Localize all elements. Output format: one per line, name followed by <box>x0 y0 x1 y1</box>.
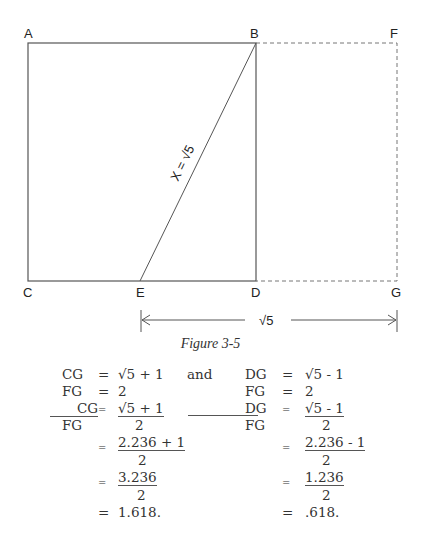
fraction-numerator: DG <box>245 400 267 416</box>
equals: = <box>282 404 290 415</box>
point-c: C <box>23 285 32 300</box>
equals: = <box>98 504 109 520</box>
diagonal-label: X = √5 <box>167 143 197 184</box>
equals: = <box>98 366 109 382</box>
fraction-numerator: 3.236 <box>118 469 157 486</box>
lhs: CG <box>62 366 83 382</box>
point-e: E <box>136 285 145 300</box>
fraction-denominator: 2 <box>322 487 331 503</box>
square-abdc <box>28 43 256 281</box>
fraction-denominator: 2 <box>138 452 147 468</box>
result-value: 1.618. <box>118 504 161 520</box>
dashed-rectangle-bfgd <box>256 43 397 281</box>
equals: = <box>98 477 106 488</box>
golden-ratio-diagram: A B F C E D G X = √5 √5 <box>0 0 421 340</box>
rhs: 2 <box>118 383 127 399</box>
equals: = <box>98 404 106 415</box>
diagonal-be <box>140 43 256 281</box>
point-g: G <box>391 285 401 300</box>
rhs: √5 - 1 <box>305 366 344 382</box>
equals: = <box>282 366 293 382</box>
dimension-label: √5 <box>259 313 273 328</box>
point-a: A <box>24 26 33 41</box>
result-value: .618. <box>305 504 339 520</box>
point-f: F <box>390 26 398 41</box>
fraction-denominator: 2 <box>322 452 331 468</box>
lhs: DG <box>245 366 267 382</box>
connector-and: and <box>187 366 212 382</box>
rhs: √5 + 1 <box>118 366 164 382</box>
fraction-denominator: 2 <box>322 417 331 433</box>
fraction-denominator: 2 <box>135 417 144 433</box>
equals: = <box>282 442 290 453</box>
fraction-numerator: 2.236 + 1 <box>118 434 185 451</box>
equals: = <box>98 442 106 453</box>
fraction-numerator: 2.236 - 1 <box>305 434 365 451</box>
equals: = <box>282 383 293 399</box>
fraction-denominator: FG <box>245 417 265 433</box>
point-b: B <box>250 26 259 41</box>
equals: = <box>98 383 109 399</box>
lhs: FG <box>62 383 82 399</box>
fraction-denominator: 2 <box>137 487 146 503</box>
rhs: 2 <box>305 383 314 399</box>
fraction-numerator: CG <box>50 400 98 417</box>
figure-caption: Figure 3-5 <box>0 336 421 352</box>
point-d: D <box>251 285 260 300</box>
equals: = <box>282 504 293 520</box>
fraction-numerator: √5 - 1 <box>305 400 344 417</box>
fraction-numerator: 1.236 <box>305 469 344 486</box>
lhs: FG <box>245 383 265 399</box>
equals: = <box>282 477 290 488</box>
fraction-numerator: √5 + 1 <box>118 400 164 417</box>
fraction-denominator: FG <box>62 417 82 433</box>
